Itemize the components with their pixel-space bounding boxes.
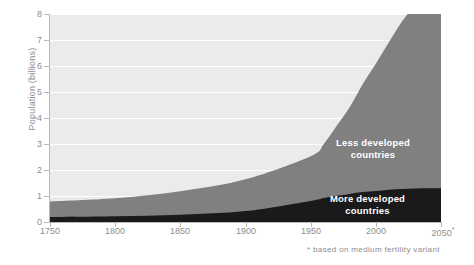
y-tick-label-7: 7 [22,35,42,45]
footnote-text: based on medium fertility variant [313,245,440,254]
footnote: * based on medium fertility variant [307,245,440,254]
series-label-more-line1: More developed [330,193,405,205]
y-tick-label-3: 3 [22,139,42,149]
x-tick-label-1850: 1850 [170,226,190,236]
x-tick-label-2000: 2000 [366,226,386,236]
series-label-more-developed: More developed countries [330,193,405,216]
series-label-less-developed: Less developed countries [336,137,410,160]
series-label-less-line2: countries [336,149,410,161]
series-label-more-line2: countries [330,205,405,217]
y-tick-label-5: 5 [22,87,42,97]
y-axis-line [49,14,50,223]
y-tick-label-8: 8 [22,9,42,19]
x-tick-label-2050-text: 2050 [432,228,452,238]
x-tick-label-1750: 1750 [40,226,60,236]
footnote-star: * [307,245,310,254]
x-tick-label-2050: 2050* [432,226,455,238]
series-label-less-line1: Less developed [336,137,410,149]
x-tick-label-1900: 1900 [236,226,256,236]
x-tick-label-2050-star: * [452,226,455,233]
stacked-area-series [50,14,441,222]
x-tick-label-1950: 1950 [301,226,321,236]
y-tick-label-6: 6 [22,61,42,71]
x-tick-label-1800: 1800 [105,226,125,236]
y-tick-label-1: 1 [22,191,42,201]
plot-area [50,14,441,222]
y-tick-label-4: 4 [22,113,42,123]
chart-root: Population (billions) 8 7 6 5 4 3 2 1 0 [0,0,474,265]
y-tick-label-2: 2 [22,165,42,175]
